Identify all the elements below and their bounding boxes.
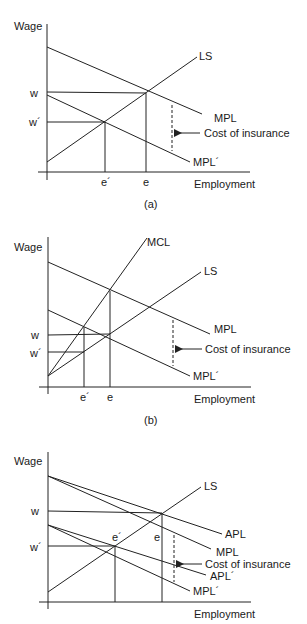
mpl-prime-curve (47, 95, 190, 162)
mpl-prime-label: MPL´ (193, 370, 219, 382)
y-axis-label: Wage (14, 20, 42, 32)
x-axis-label: Employment (194, 608, 255, 620)
mpl-label: MPL (214, 112, 237, 124)
e-prime-tick: e´ (80, 391, 90, 403)
mpl-prime-label: MPL´ (193, 585, 219, 597)
panel-caption: (b) (144, 414, 157, 426)
e-tick: e (154, 531, 160, 543)
w-tick: w (30, 505, 39, 517)
panel-b: Wage Employment MCL LS MPL MPL´ w w´ e´ … (14, 236, 291, 426)
e-tick: e (107, 391, 113, 403)
panel-caption: (a) (144, 198, 157, 210)
e-prime-tick: e´ (101, 176, 111, 188)
ls-curve (48, 487, 201, 592)
labor-market-diagrams: Wage Employment MPL MPL´ LS w w´ e´ e Co… (0, 0, 307, 624)
cost-of-insurance-label: Cost of insurance (205, 558, 291, 570)
ls-label: LS (204, 265, 217, 277)
w-tick: w (30, 329, 39, 341)
w-line (47, 92, 146, 93)
mcl-curve (48, 238, 147, 376)
mpl-curve (48, 262, 210, 334)
mpl-prime-curve (48, 310, 190, 376)
apl-prime-curve (48, 525, 206, 575)
x-axis-label: Employment (194, 178, 255, 190)
mpl-label: MPL (216, 546, 239, 558)
y-axis-label: Wage (14, 241, 42, 253)
ls-curve (48, 272, 201, 376)
ls-label: LS (199, 50, 212, 62)
mpl-label: MPL (214, 323, 237, 335)
mpl-curve (47, 47, 202, 114)
panel-a: Wage Employment MPL MPL´ LS w w´ e´ e Co… (14, 20, 290, 210)
w-prime-tick: w´ (29, 347, 42, 359)
y-axis-label: Wage (14, 455, 42, 467)
cost-of-insurance-label: Cost of insurance (205, 343, 291, 355)
w-line (48, 511, 162, 513)
apl-curve (48, 476, 222, 534)
x-axis-label: Employment (194, 393, 255, 405)
apl-prime-label: APL´ (210, 570, 234, 582)
w-tick: w (29, 87, 38, 99)
apl-label: APL (225, 528, 246, 540)
panel-c: Wage Employment LS APL MPL APL´ MPL´ w w… (14, 452, 291, 620)
cost-of-insurance-label: Cost of insurance (204, 127, 290, 139)
w-prime-tick: w´ (29, 541, 42, 553)
e-prime-tick: e´ (112, 531, 122, 543)
w-prime-tick: w´ (28, 116, 41, 128)
mpl-prime-label: MPL´ (193, 156, 219, 168)
e-tick: e (143, 176, 149, 188)
mcl-label: MCL (147, 236, 170, 248)
ls-curve (47, 57, 197, 162)
ls-label: LS (204, 480, 217, 492)
